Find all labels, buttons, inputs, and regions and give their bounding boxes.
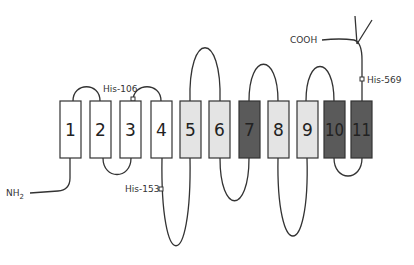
- loop-8-9: [278, 158, 307, 236]
- segment-4-label: 4: [156, 120, 167, 140]
- c-terminal-tail: [322, 39, 362, 101]
- n-terminus-label: NH2: [6, 188, 24, 201]
- n-terminal-tail: [30, 158, 70, 193]
- segment-5-label: 5: [185, 120, 196, 140]
- segment-7-label: 7: [244, 120, 255, 140]
- loop-10-11: [334, 158, 362, 176]
- topology-diagram: NH2 COOH His-106 His-153 His-569 1234567…: [0, 0, 414, 265]
- segment-1-label: 1: [65, 120, 76, 140]
- loop-1-2: [73, 87, 100, 101]
- his-106-label: His-106: [103, 84, 138, 94]
- his-153-marker: [159, 187, 163, 191]
- transmembrane-segments: 1234567891011: [60, 101, 372, 158]
- loop-9-10: [306, 67, 334, 102]
- his-153-label: His-153: [125, 184, 159, 194]
- his-569-label: His-569: [367, 75, 402, 85]
- loop-5-6: [190, 48, 220, 101]
- loop-7-8: [249, 64, 278, 101]
- segment-10-label: 10: [325, 120, 344, 140]
- c-terminus-label: COOH: [290, 35, 317, 45]
- loop-4-5: [162, 158, 190, 246]
- segment-11-label: 11: [352, 120, 371, 140]
- his-569-marker: [360, 77, 364, 81]
- segment-8-label: 8: [273, 120, 284, 140]
- segment-9-label: 9: [302, 120, 313, 140]
- loop-2-3: [103, 158, 131, 175]
- glycosylation-icon: [355, 16, 372, 44]
- segment-3-label: 3: [125, 120, 136, 140]
- loop-6-7: [220, 158, 249, 201]
- segment-2-label: 2: [95, 120, 106, 140]
- segment-6-label: 6: [214, 120, 225, 140]
